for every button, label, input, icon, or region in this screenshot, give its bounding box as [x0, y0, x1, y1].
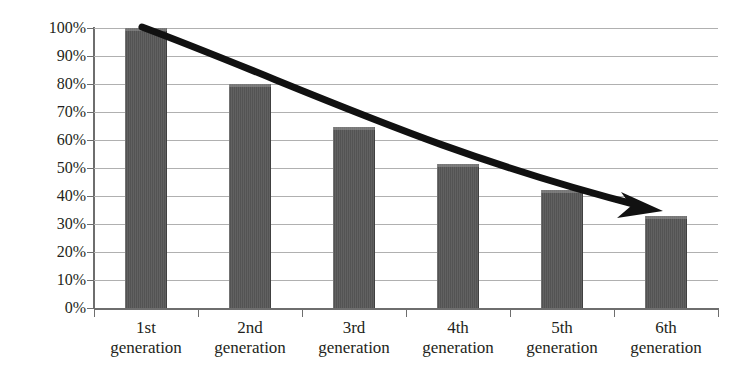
- gridline-10: [94, 280, 718, 281]
- bar-5th-generation[interactable]: [541, 190, 583, 308]
- x-axis-tick: [718, 308, 719, 317]
- plot-area: [94, 28, 718, 308]
- x-axis-tick: [510, 308, 511, 317]
- chart-canvas: 100% 90% 80% 70% 60% 50% 40% 30% 20% 10%…: [0, 0, 753, 387]
- gridline-80: [94, 84, 718, 85]
- x-axis-tick: [94, 308, 95, 317]
- y-axis-label: 90%: [26, 48, 86, 64]
- x-axis-label-line2: generation: [596, 338, 736, 358]
- gridline-60: [94, 140, 718, 141]
- gridline-30: [94, 224, 718, 225]
- y-axis-label: 70%: [26, 104, 86, 120]
- bar-3rd-generation[interactable]: [333, 127, 375, 308]
- bar-1st-generation[interactable]: [125, 28, 167, 308]
- y-axis-label: 30%: [26, 216, 86, 232]
- y-axis-label: 40%: [26, 188, 86, 204]
- gridline-70: [94, 112, 718, 113]
- y-axis-label: 80%: [26, 76, 86, 92]
- y-axis-label: 0%: [26, 300, 86, 316]
- y-axis-label: 60%: [26, 132, 86, 148]
- bar-4th-generation[interactable]: [437, 164, 479, 308]
- x-axis-label-6th-generation: 6th generation: [596, 318, 736, 358]
- x-axis-label-line1: 6th: [596, 318, 736, 338]
- y-axis-label: 20%: [26, 244, 86, 260]
- x-axis-tick: [406, 308, 407, 317]
- x-axis-tick: [198, 308, 199, 317]
- gridline-40: [94, 196, 718, 197]
- gridline-90: [94, 56, 718, 57]
- y-axis-label: 10%: [26, 272, 86, 288]
- gridline-20: [94, 252, 718, 253]
- x-axis-tick: [302, 308, 303, 317]
- y-axis-label: 50%: [26, 160, 86, 176]
- gridline-50: [94, 168, 718, 169]
- gridline-100: [94, 28, 718, 29]
- bar-6th-generation[interactable]: [645, 216, 687, 308]
- x-axis-tick: [614, 308, 615, 317]
- y-axis-label: 100%: [26, 20, 86, 36]
- bar-2nd-generation[interactable]: [229, 84, 271, 308]
